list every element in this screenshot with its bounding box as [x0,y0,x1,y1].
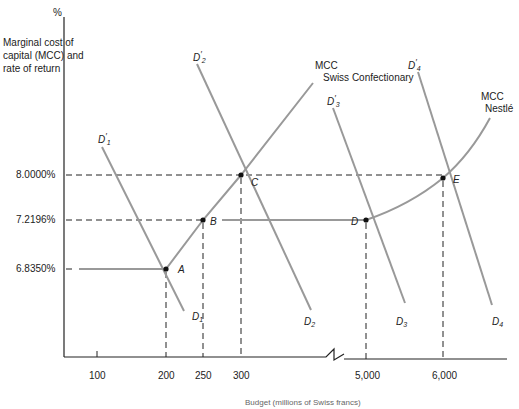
x-tick-300-label: 300 [233,370,250,382]
mcc-swiss-label-2: Swiss Confectionary [323,72,414,84]
demand-d3-bottom-label: D3 [396,316,407,331]
y-tick-68350: 6.8350% [16,263,55,275]
mcc-swiss-curve [79,83,313,269]
demand-d2-top-label: D′2 [193,48,206,67]
y-tick-72196: 7.2196% [16,214,55,226]
mcc-nestle-label-2: Nestlé [485,103,513,115]
x-axis-label: Budget (millions of Swiss francs) [245,397,361,409]
demand-d3 [333,108,405,303]
demand-d1-bottom-label: D1 [192,311,203,326]
demand-d3-top-label: D′3 [327,92,340,111]
demand-d2-bottom-label: D2 [304,316,315,331]
x-tick-200-label: 200 [158,370,175,382]
demand-d4-bottom-label: D4 [492,316,503,331]
point-c [238,172,243,177]
point-d-label: D [351,216,358,228]
point-b [200,217,205,222]
x-tick-100-label: 100 [89,370,106,382]
point-a-label: A [178,264,185,276]
point-a [163,266,168,271]
point-e-label: E [453,174,460,186]
x-tick-6000-label: 6,000 [432,370,457,382]
mcc-swiss-label-1: MCC [315,60,338,72]
point-c-label: C [251,177,258,189]
demand-d1-top-label: D′1 [98,130,111,149]
x-axis-left [64,349,344,360]
demand-d1 [102,147,184,311]
demand-d4-top-label: D′4 [408,56,421,75]
dashed-guides [66,175,443,359]
mcc-nestle-label-1: MCC [481,91,504,103]
y-axis-label: Marginal cost of capital (MCC) and rate … [3,36,93,75]
y-unit-label: % [53,7,62,19]
x-tick-250-label: 250 [195,370,212,382]
y-tick-8: 8.0000% [16,169,55,181]
point-e [440,175,445,180]
point-d [363,217,368,222]
x-tick-5000-label: 5,000 [355,370,380,382]
point-b-label: B [210,216,217,228]
equilibrium-points [163,172,445,271]
